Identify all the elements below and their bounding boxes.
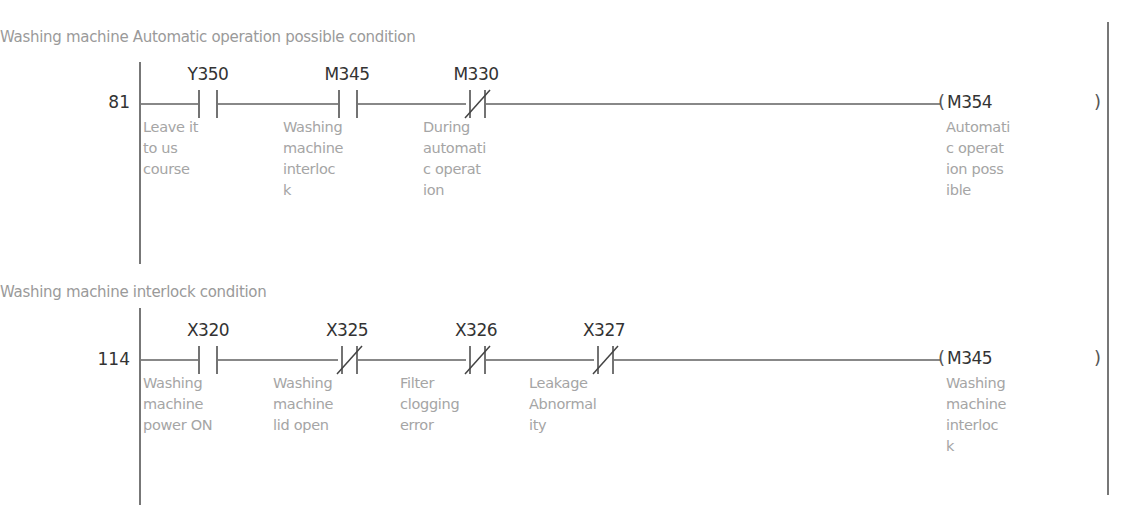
normally-open-contact-icon[interactable] <box>198 90 218 118</box>
contact-device-label: M330 <box>436 64 516 84</box>
rung-2-wire-a <box>141 359 198 361</box>
rung-1-step-number: 81 <box>80 92 130 112</box>
rung-2-comment: Washing machine interlock condition <box>0 283 266 301</box>
normally-open-contact-icon[interactable] <box>338 90 358 118</box>
rung-2-wire-c <box>358 359 466 361</box>
contact-device-label: X327 <box>564 320 644 340</box>
normally-closed-contact-icon[interactable] <box>338 346 358 374</box>
coil-close-paren: ) <box>1094 91 1101 112</box>
rung-1-wire-d <box>486 103 940 105</box>
contact-comment: Leakage Abnormal ity <box>529 373 609 436</box>
rung-2-step-number: 114 <box>80 349 130 369</box>
normally-closed-contact-icon[interactable] <box>466 90 486 118</box>
coil-close-paren: ) <box>1094 347 1101 368</box>
right-power-rail <box>1107 22 1109 495</box>
contact-comment: Leave it to us course <box>143 117 223 180</box>
coil-device-label[interactable]: M345 <box>947 348 992 368</box>
contact-comment: Washing machine power ON <box>143 373 223 436</box>
coil-comment: Automati c operat ion poss ible <box>946 117 1026 201</box>
contact-comment: Washing machine lid open <box>273 373 353 436</box>
left-power-rail-rung-2 <box>139 308 141 505</box>
contact-device-label: Y350 <box>168 64 248 84</box>
normally-open-contact-icon[interactable] <box>198 346 218 374</box>
rung-2-wire-d <box>486 359 594 361</box>
contact-comment: Washing machine interloc k <box>283 117 363 201</box>
contact-comment: During automati c operat ion <box>423 117 503 201</box>
coil-device-label[interactable]: M354 <box>947 92 992 112</box>
coil-open-paren: ( <box>938 91 945 112</box>
rung-2-wire-e <box>614 359 940 361</box>
rung-1-wire-c <box>358 103 466 105</box>
normally-closed-contact-icon[interactable] <box>466 346 486 374</box>
coil-comment: Washing machine interloc k <box>946 373 1026 457</box>
rung-1-wire-b <box>218 103 338 105</box>
contact-comment: Filter clogging error <box>400 373 480 436</box>
contact-device-label: M345 <box>307 64 387 84</box>
left-power-rail-rung-1 <box>139 62 141 264</box>
contact-device-label: X326 <box>436 320 516 340</box>
normally-closed-contact-icon[interactable] <box>594 346 614 374</box>
rung-1-comment: Washing machine Automatic operation poss… <box>0 28 415 46</box>
rung-1-wire-a <box>141 103 198 105</box>
contact-device-label: X320 <box>168 320 248 340</box>
rung-2-wire-b <box>218 359 338 361</box>
contact-device-label: X325 <box>307 320 387 340</box>
coil-open-paren: ( <box>938 347 945 368</box>
